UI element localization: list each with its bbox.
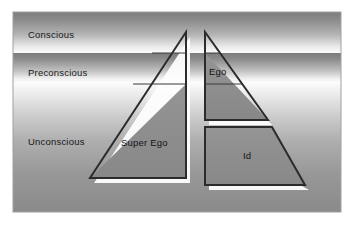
- label-preconscious: Preconscious: [28, 67, 87, 78]
- psyche-diagram-svg: Conscious Preconscious Unconscious Ego S…: [0, 0, 349, 225]
- label-unconscious: Unconscious: [28, 136, 85, 147]
- label-super-ego: Super Ego: [121, 137, 168, 148]
- label-id: Id: [243, 150, 251, 161]
- label-conscious: Conscious: [28, 29, 74, 40]
- psyche-diagram-canvas: Conscious Preconscious Unconscious Ego S…: [0, 0, 349, 225]
- label-ego: Ego: [209, 66, 227, 77]
